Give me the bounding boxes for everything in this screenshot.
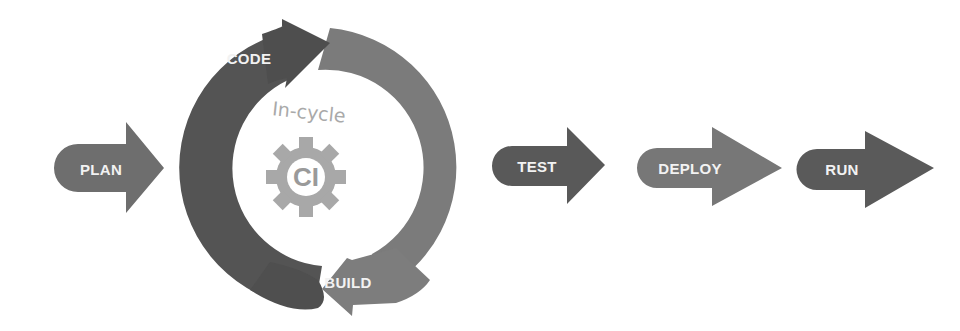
devops-ci-diagram — [0, 0, 960, 331]
step-label-code: CODE — [227, 50, 272, 67]
stage-label-plan: PLAN — [80, 161, 122, 178]
stage-label-test: TEST — [517, 158, 557, 175]
step-label-build: BUILD — [324, 274, 371, 291]
run-arrow — [796, 131, 934, 208]
ci-center-label: CI — [293, 162, 319, 193]
stage-label-deploy: DEPLOY — [658, 160, 721, 177]
stage-label-run: RUN — [825, 161, 858, 178]
